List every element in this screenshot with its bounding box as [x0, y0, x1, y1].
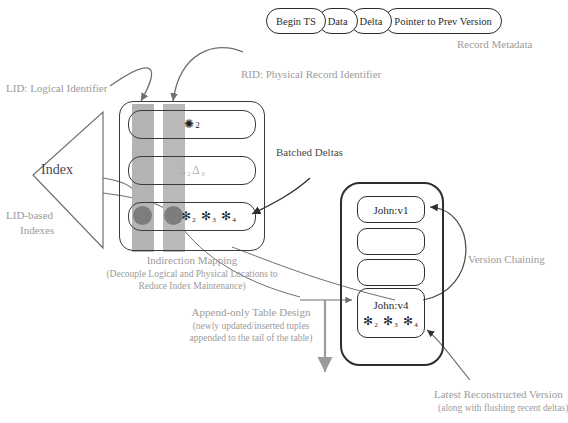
mapping-row-1: ✺2: [128, 110, 256, 139]
latest-version-caption-title: Latest Reconstructed Version: [434, 388, 563, 401]
version-chaining-label: Version Chaining: [468, 253, 545, 266]
lid-arrow: [110, 68, 152, 101]
batched-deltas-label: Batched Deltas: [276, 146, 343, 159]
index-label: Index: [41, 162, 73, 178]
append-caption-line2: appended to the tail of the table): [190, 333, 313, 344]
rid-arrow: [173, 48, 243, 101]
mapping-row-2-symbol: Δ₂Δ₃: [178, 163, 206, 178]
mapping-row-1-subscript: 2: [195, 120, 200, 130]
rid-label: RID: Physical Record Identifier: [241, 68, 381, 81]
append-caption-line1: (newly updated/inserted tuples: [193, 321, 310, 332]
mapping-row-2: Δ₂Δ₃: [128, 156, 256, 185]
record-metadata-caption: Record Metadata: [457, 38, 532, 51]
latest-version-caption-sub: (along with flushing recent deltas): [438, 403, 568, 414]
rid-dot: [164, 206, 183, 225]
table-slot-john-v4: John:v4 ✻₂ ✻₃ ✻₄: [357, 288, 425, 338]
metadata-field-begin-ts: Begin TS: [266, 8, 326, 34]
lid-based-indexes-line2: Indexes: [20, 224, 54, 237]
table-slot-john-v1: John:v1: [357, 196, 425, 223]
record-metadata-capsules: Begin TS Data Delta Pointer to Prev Vers…: [266, 9, 502, 33]
table-slot-john-v1-label: John:v1: [374, 204, 409, 216]
mapping-row-1-symbol: ✺: [184, 117, 195, 132]
metadata-field-pointer: Pointer to Prev Version: [384, 8, 502, 34]
table-slot-john-v4-symbols: ✻₂ ✻₃ ✻₄: [363, 314, 419, 328]
indirection-caption-title: Indirection Mapping: [147, 254, 238, 267]
mapping-row-3-symbol: ✻₂ ✻₃ ✻₄: [181, 209, 238, 224]
lid-based-indexes-line1: LID-based: [6, 209, 53, 222]
append-caption-title: Append-only Table Design: [192, 306, 311, 319]
lid-dot: [133, 206, 152, 225]
indirection-caption-line1: (Decouple Logical and Physical Locations…: [106, 269, 277, 280]
table-slot-john-v4-label: John:v4: [374, 299, 409, 311]
table-slot-empty-2: [357, 259, 425, 286]
lid-label: LID: Logical Identifier: [6, 82, 107, 95]
indirection-caption-line2: Reduce Index Maintenance): [138, 281, 245, 292]
table-slot-empty-1: [357, 228, 425, 255]
